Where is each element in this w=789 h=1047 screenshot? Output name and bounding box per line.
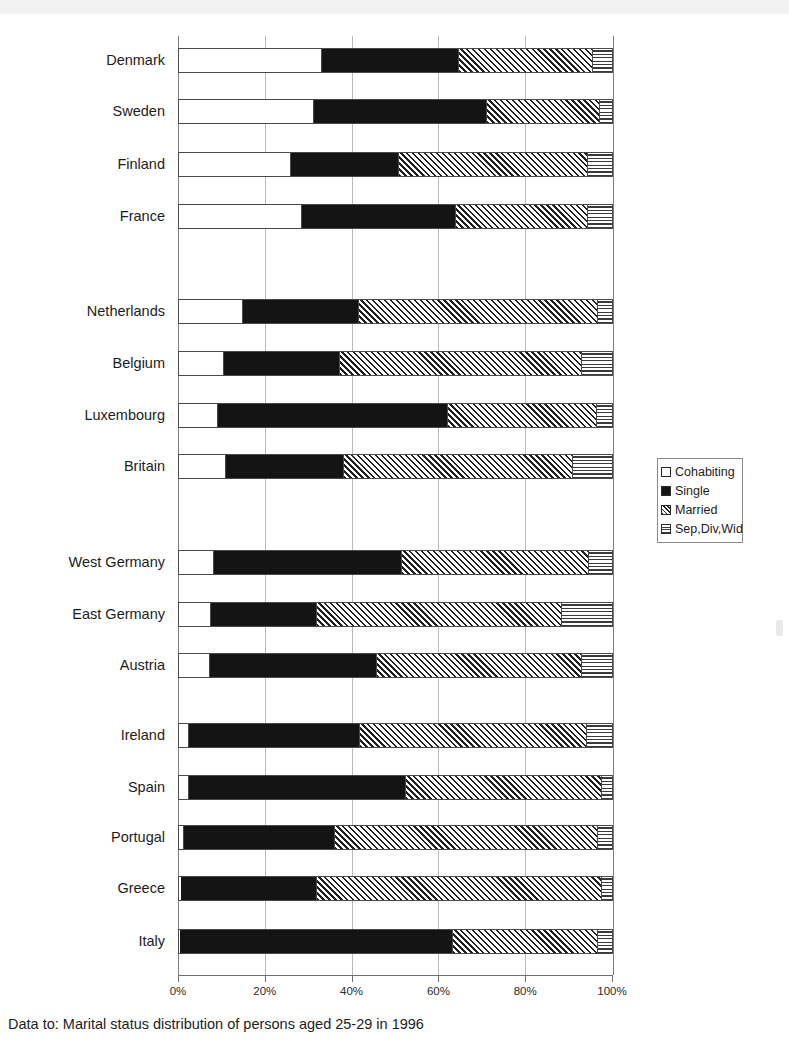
bar-segment-married [316,877,602,900]
category-label: Britain [0,458,165,474]
bar-segment-married [398,153,589,176]
swatch-black-icon [661,486,671,496]
bar-segment-single [211,603,316,626]
stacked-bar [178,723,613,748]
bar-segment-married [359,724,587,747]
page-edge-artifact [776,620,783,636]
bar-segment-cohab [179,603,211,626]
bar-segment-sdw [602,776,612,799]
bar-segment-sdw [582,654,612,677]
bar-segment-married [339,352,582,375]
bar-segment-cohab [179,49,322,72]
bar-segment-single [314,100,486,123]
x-tick-label: 80% [495,985,555,997]
bar-segment-sdw [587,724,612,747]
bar-segment-married [358,300,598,323]
tick-mark [525,975,526,982]
tick-mark [178,975,179,982]
swatch-horizontal-hatch-icon [661,524,671,534]
category-label: Portugal [0,829,165,845]
bar-segment-married [343,455,574,478]
bar-segment-single [291,153,398,176]
bar-segment-cohab [179,100,314,123]
bar-segment-single [302,205,455,228]
x-tick-label: 20% [235,985,295,997]
bar-segment-sdw [573,455,612,478]
stacked-bar [178,929,613,954]
category-label: Ireland [0,727,165,743]
category-label: Spain [0,779,165,795]
category-label: West Germany [0,554,165,570]
bar-segment-single [224,352,339,375]
bar-segment-married [458,49,593,72]
legend-item: Sep,Div,Wid [661,519,739,538]
chart-legend: CohabitingSingleMarriedSep,Div,Wid [657,458,743,543]
stacked-bar [178,48,613,73]
category-label: Greece [0,880,165,896]
category-label: Finland [0,156,165,172]
bar-segment-married [376,654,582,677]
stacked-bar [178,550,613,575]
bar-segment-married [447,404,596,427]
bar-segment-single [226,455,343,478]
bar-segment-cohab [179,404,218,427]
bar-segment-sdw [588,153,612,176]
tick-mark [438,975,439,982]
bar-segment-sdw [562,603,612,626]
x-tick-label: 40% [322,985,382,997]
bar-segment-cohab [179,153,291,176]
category-label: East Germany [0,606,165,622]
category-label: Luxembourg [0,407,165,423]
bar-segment-cohab [179,724,189,747]
bar-segment-cohab [179,300,243,323]
bar-segment-sdw [593,49,612,72]
bar-segment-cohab [179,551,214,574]
category-label: Sweden [0,103,165,119]
category-label: Austria [0,657,165,673]
stacked-bar [178,602,613,627]
tick-mark [612,975,613,982]
stacked-bar [178,152,613,177]
bar-segment-married [486,100,600,123]
bar-segment-single [181,877,316,900]
category-label: France [0,208,165,224]
bar-segment-sdw [602,877,612,900]
stacked-bar [178,99,613,124]
swatch-diagonal-hatch-icon [661,505,671,515]
legend-label: Sep,Div,Wid [675,522,743,536]
category-label: Italy [0,933,165,949]
bar-segment-cohab [179,776,189,799]
legend-label: Single [675,484,710,498]
stacked-bar [178,775,613,800]
stacked-bar [178,454,613,479]
bar-segment-single [214,551,401,574]
bar-segment-single [189,724,359,747]
category-label: Belgium [0,355,165,371]
stacked-bar [178,299,613,324]
category-label: Netherlands [0,303,165,319]
bar-segment-sdw [582,352,612,375]
stacked-bar [178,351,613,376]
bar-segment-married [452,930,598,953]
bar-segment-sdw [598,826,612,849]
legend-label: Married [675,503,717,517]
bar-segment-married [405,776,601,799]
legend-item: Cohabiting [661,462,739,481]
bar-segment-sdw [588,205,612,228]
bar-segment-married [334,826,598,849]
bar-segment-single [180,930,452,953]
bar-segment-sdw [598,930,612,953]
legend-label: Cohabiting [675,465,735,479]
bar-segment-married [401,551,589,574]
bar-segment-single [322,49,458,72]
bar-segment-sdw [598,300,612,323]
bar-segment-married [455,205,588,228]
bar-segment-sdw [600,100,612,123]
bar-segment-single [210,654,377,677]
stacked-bar [178,653,613,678]
bar-segment-sdw [589,551,612,574]
bar-segment-single [189,776,405,799]
category-label: Denmark [0,52,165,68]
stacked-bar [178,403,613,428]
tick-mark [352,975,353,982]
